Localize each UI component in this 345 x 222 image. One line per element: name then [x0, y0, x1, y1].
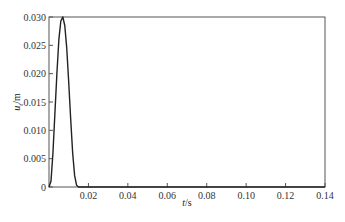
line-chart: 00.0050.0100.0150.0200.0250.030 0.020.04… — [0, 0, 345, 222]
x-tick-label: 0.12 — [277, 190, 295, 201]
x-axis-label: t/s — [182, 197, 192, 208]
x-tick-label: 0.04 — [119, 190, 137, 201]
y-tick-label: 0.030 — [24, 12, 47, 23]
x-tick-label: 0.14 — [316, 190, 334, 201]
y-tick-label: 0 — [41, 182, 46, 193]
y-tick-label: 0.020 — [24, 68, 47, 79]
displacement-curve — [49, 17, 325, 187]
plot-area — [49, 17, 325, 187]
y-tick-label: 0.015 — [24, 97, 47, 108]
y-tick-label: 0.010 — [24, 125, 47, 136]
x-axis-ticks: 0.020.040.060.080.100.120.14 — [80, 183, 334, 201]
x-tick-label: 0.06 — [159, 190, 177, 201]
y-tick-label: 0.005 — [24, 153, 47, 164]
x-tick-label: 0.08 — [198, 190, 216, 201]
y-tick-label: 0.025 — [24, 40, 47, 51]
x-tick-label: 0.10 — [237, 190, 255, 201]
x-tick-label: 0.02 — [80, 190, 98, 201]
plot-border — [49, 17, 325, 187]
